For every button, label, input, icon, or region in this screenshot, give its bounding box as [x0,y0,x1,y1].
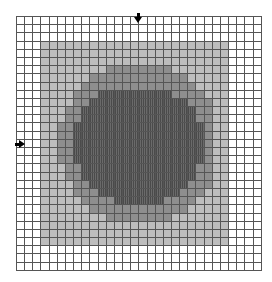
grid-cell-empty [204,32,212,40]
grid-cell-empty [130,245,138,253]
grid-cell-empty [253,73,261,81]
grid-cell-empty [163,16,171,24]
grid-cell-empty [179,24,187,32]
grid-cell-dark [106,98,114,106]
grid-cell-empty [73,32,81,40]
grid-cell-light [89,49,97,57]
grid-cell-empty [16,253,24,261]
grid-cell-dark [147,155,155,163]
grid-cell-medium [57,131,65,139]
grid-cell-dark [114,139,122,147]
grid-cell-dark [147,180,155,188]
grid-cell-dark [98,114,106,122]
grid-cell-empty [253,57,261,65]
grid-cell-empty [163,245,171,253]
grid-cell-empty [228,229,236,237]
grid-cell-medium [138,204,146,212]
grid-cell-light [89,213,97,221]
grid-cell-light [163,49,171,57]
grid-cell-light [204,237,212,245]
grid-cell-empty [57,32,65,40]
grid-cell-empty [24,32,32,40]
grid-cell-empty [228,73,236,81]
grid-cell-empty [81,253,89,261]
grid-cell-light [57,188,65,196]
grid-cell-light [73,204,81,212]
grid-cell-empty [253,90,261,98]
grid-cell-dark [163,114,171,122]
grid-cell-dark [138,196,146,204]
grid-cell-light [179,213,187,221]
grid-cell-empty [228,147,236,155]
grid-cell-dark [147,114,155,122]
grid-cell-empty [16,106,24,114]
grid-cell-light [40,114,48,122]
grid-cell-dark [163,131,171,139]
grid-cell-light [195,204,203,212]
grid-cell-light [73,229,81,237]
grid-cell-dark [114,106,122,114]
grid-cell-medium [106,65,114,73]
grid-cell-medium [204,139,212,147]
grid-cell-empty [155,16,163,24]
grid-cell-medium [122,204,130,212]
grid-cell-light [89,229,97,237]
grid-cell-light [212,139,220,147]
grid-cell-empty [130,32,138,40]
grid-cell-dark [114,98,122,106]
grid-cell-medium [155,204,163,212]
grid-cell-medium [179,73,187,81]
grid-cell-empty [187,24,195,32]
grid-cell-light [212,98,220,106]
grid-cell-empty [24,139,32,147]
grid-cell-light [171,57,179,65]
grid-cell-empty [212,245,220,253]
grid-cell-light [114,221,122,229]
grid-cell-empty [244,262,252,270]
grid-cell-light [49,41,57,49]
grid-cell-dark [122,98,130,106]
grid-cell-dark [73,147,81,155]
grid-cell-light [204,221,212,229]
grid-cell-empty [147,253,155,261]
grid-cell-dark [81,106,89,114]
grid-cell-medium [195,163,203,171]
grid-cell-medium [106,213,114,221]
grid-cell-light [195,237,203,245]
grid-cell-medium [130,65,138,73]
grid-cell-dark [89,122,97,130]
grid-cell-empty [228,172,236,180]
grid-cell-empty [24,131,32,139]
grid-cell-dark [98,172,106,180]
grid-cell-light [89,221,97,229]
grid-cell-light [212,147,220,155]
grid-cell-medium [171,196,179,204]
grid-cell-empty [24,180,32,188]
grid-cell-light [73,221,81,229]
grid-cell-light [49,98,57,106]
grid-cell-medium [130,213,138,221]
grid-cell-light [122,221,130,229]
grid-cell-medium [73,172,81,180]
grid-cell-light [40,237,48,245]
grid-cell-empty [147,16,155,24]
grid-cell-light [65,221,73,229]
grid-cell-empty [16,196,24,204]
grid-cell-empty [228,24,236,32]
grid-cell-light [40,90,48,98]
grid-cell-empty [16,65,24,73]
grid-cell-dark [163,122,171,130]
grid-cell-light [179,229,187,237]
grid-cell-empty [236,24,244,32]
grid-cell-empty [155,253,163,261]
grid-cell-light [89,57,97,65]
grid-cell-empty [179,32,187,40]
grid-cell-empty [24,213,32,221]
grid-cell-light [49,237,57,245]
grid-cell-empty [187,253,195,261]
grid-cell-light [187,41,195,49]
grid-cell-empty [40,16,48,24]
grid-cell-dark [98,155,106,163]
grid-cell-medium [73,180,81,188]
grid-cell-dark [195,131,203,139]
